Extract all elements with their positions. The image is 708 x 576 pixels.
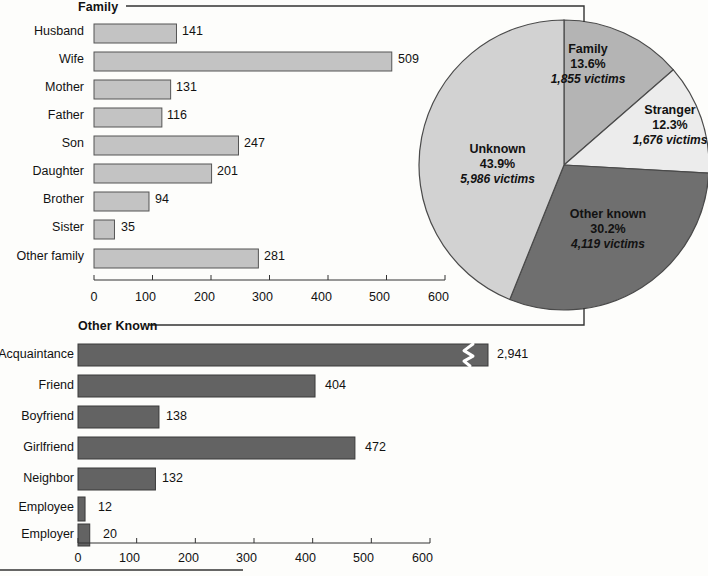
pie-slice-name-family: Family [533, 42, 643, 57]
other-known-axis-tick-0: 0 [68, 551, 88, 565]
other-known-axis-tick-100: 100 [112, 551, 147, 565]
family-category-label-father: Father [48, 108, 84, 122]
family-panel-title: Family [78, 0, 118, 14]
other-known-value-label-friend: 404 [325, 378, 346, 392]
family-category-label-sister: Sister [52, 220, 84, 234]
family-axis-tick-100: 100 [128, 290, 163, 304]
pie-label-family: Family 13.6% 1,855 victims [533, 42, 643, 86]
family-value-label-daughter: 201 [217, 164, 238, 178]
pie-label-unknown: Unknown 43.9% 5,986 victims [440, 142, 555, 186]
other-known-axis-tick-400: 400 [288, 551, 323, 565]
other-known-bar-acquaintance [78, 344, 488, 366]
other-known-panel-connector-line [149, 308, 584, 325]
family-category-label-other-family: Other family [17, 249, 84, 263]
other-known-category-label-employer: Employer [21, 527, 74, 541]
other-known-axis-tick-600: 600 [405, 551, 440, 565]
family-panel-connector-line [126, 6, 584, 22]
family-bar-daughter [94, 164, 212, 183]
other-known-bar-boyfriend [78, 406, 159, 428]
pie-slice-victims-other-known: 4,119 victims [548, 237, 668, 251]
family-axis-tick-400: 400 [304, 290, 339, 304]
other-known-category-label-boyfriend: Boyfriend [21, 409, 74, 423]
family-category-label-brother: Brother [43, 192, 84, 206]
other-known-value-label-boyfriend: 138 [166, 409, 187, 423]
family-bar-mother [94, 80, 171, 99]
other-known-value-label-employee: 12 [98, 500, 112, 514]
other-known-axis-tick-200: 200 [171, 551, 206, 565]
family-category-label-son: Son [62, 136, 84, 150]
family-bar-brother [94, 192, 149, 211]
pie-slice-percent-family: 13.6% [533, 57, 643, 72]
other-known-axis-tick-500: 500 [346, 551, 381, 565]
family-value-label-brother: 94 [155, 192, 169, 206]
family-value-label-wife: 509 [398, 52, 419, 66]
chart-vector-layer [0, 0, 708, 576]
family-bar-wife [94, 52, 392, 71]
family-value-label-husband: 141 [182, 24, 203, 38]
family-bar-other-family [94, 249, 258, 268]
family-value-label-son: 247 [244, 136, 265, 150]
pie-label-stranger: Stranger 12.3% 1,676 victims [620, 103, 708, 147]
other-known-category-label-friend: Friend [39, 378, 74, 392]
family-category-label-husband: Husband [34, 24, 84, 38]
pie-label-other-known: Other known 30.2% 4,119 victims [548, 207, 668, 251]
pie-slice-percent-unknown: 43.9% [440, 157, 555, 172]
pie-slice-name-stranger: Stranger [620, 103, 708, 118]
family-bar-husband [94, 24, 176, 43]
pie-slice-victims-unknown: 5,986 victims [440, 172, 555, 186]
other-known-panel-title: Other Known [78, 319, 158, 333]
other-known-category-label-neighbor: Neighbor [23, 471, 74, 485]
pie-slice-percent-stranger: 12.3% [620, 118, 708, 133]
other-known-bar-neighbor [78, 468, 155, 490]
other-known-bar-girlfriend [78, 437, 355, 459]
other-known-value-label-girlfriend: 472 [365, 440, 386, 454]
family-category-label-mother: Mother [45, 80, 84, 94]
other-known-value-label-neighbor: 132 [162, 471, 183, 485]
other-known-category-label-acquaintance: Acquaintance [0, 347, 74, 361]
other-known-bar-employee [78, 497, 85, 521]
family-axis-tick-200: 200 [187, 290, 222, 304]
family-value-label-father: 116 [167, 108, 187, 122]
family-bar-son [94, 136, 238, 155]
other-known-bar-friend [78, 375, 315, 397]
other-known-value-label-acquaintance: 2,941 [497, 347, 528, 361]
other-known-category-label-employee: Employee [18, 500, 74, 514]
family-axis-tick-600: 600 [421, 290, 456, 304]
other-known-axis-tick-300: 300 [229, 551, 264, 565]
family-category-label-daughter: Daughter [33, 164, 84, 178]
family-bar-sister [94, 220, 114, 239]
family-category-label-wife: Wife [59, 52, 84, 66]
family-axis-tick-500: 500 [362, 290, 397, 304]
other-known-value-label-employer: 20 [103, 527, 117, 541]
family-bar-father [94, 108, 162, 127]
pie-slice-victims-stranger: 1,676 victims [620, 133, 708, 147]
pie-slice-percent-other-known: 30.2% [548, 222, 668, 237]
pie-slice-name-other-known: Other known [548, 207, 668, 222]
pie-slice-victims-family: 1,855 victims [533, 72, 643, 86]
family-value-label-mother: 131 [176, 80, 197, 94]
family-axis-tick-300: 300 [245, 290, 280, 304]
family-axis-tick-0: 0 [84, 290, 104, 304]
other-known-category-label-girlfriend: Girlfriend [23, 440, 74, 454]
family-value-label-sister: 35 [121, 220, 135, 234]
infographic-canvas: Family Husband Wife Mother Father Son Da… [0, 0, 708, 576]
family-value-label-other-family: 281 [264, 249, 285, 263]
pie-slice-name-unknown: Unknown [440, 142, 555, 157]
